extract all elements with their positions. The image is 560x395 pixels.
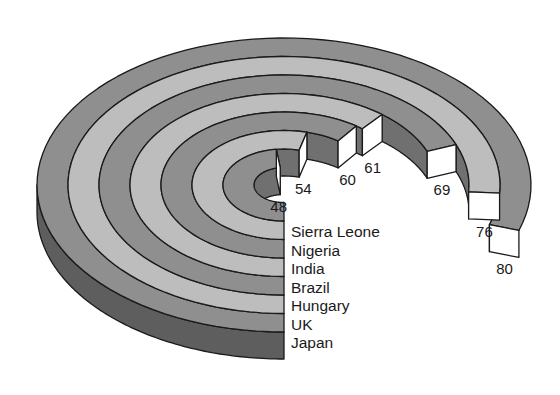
- category-label-hungary: Hungary: [291, 297, 350, 314]
- category-label-sierra-leone: Sierra Leone: [291, 223, 380, 240]
- value-label-hungary: 69: [434, 181, 451, 198]
- inner-wall-brazil: [356, 126, 362, 156]
- radial-bar-chart: 48 54 60 61 69 76 80 Sierra Leone Nigeri…: [0, 0, 560, 395]
- category-label-uk: UK: [291, 316, 313, 333]
- category-label-japan: Japan: [291, 334, 333, 351]
- value-label-japan: 80: [496, 260, 513, 277]
- category-label-brazil: Brazil: [291, 279, 330, 296]
- value-label-nigeria: 54: [295, 180, 312, 197]
- end-cap-japan: [489, 225, 518, 258]
- value-label-india: 60: [339, 171, 356, 188]
- ring-top-faces: [37, 38, 531, 332]
- value-label-sierra-leone: 48: [270, 198, 287, 215]
- category-labels: Sierra Leone Nigeria India Brazil Hungar…: [291, 223, 380, 351]
- value-label-uk: 76: [476, 223, 493, 240]
- category-label-nigeria: Nigeria: [291, 242, 340, 259]
- category-label-india: India: [291, 260, 325, 277]
- value-label-brazil: 61: [364, 159, 381, 176]
- end-cap-uk: [469, 192, 500, 220]
